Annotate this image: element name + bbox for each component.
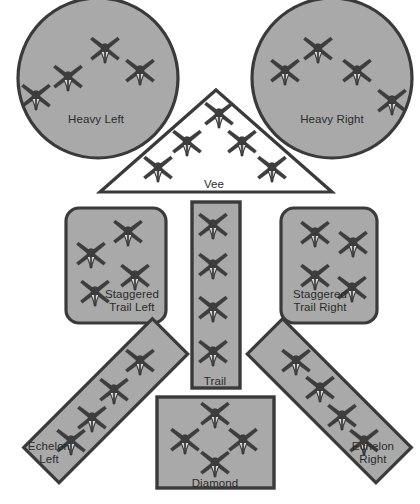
formation-label-echelon-right: Echelon Right xyxy=(163,440,420,466)
label-layer: Heavy LeftHeavy RightVeeStaggered Trail … xyxy=(0,0,420,504)
formation-label-vee: Vee xyxy=(4,178,420,191)
formation-label-diamond: Diamond xyxy=(5,477,420,490)
formation-label-heavy-left: Heavy Left xyxy=(0,113,306,126)
formation-label-trail: Trail xyxy=(5,375,420,388)
formation-label-echelon-left: Echelon Left xyxy=(0,440,259,466)
formation-diagram: Heavy LeftHeavy RightVeeStaggered Trail … xyxy=(0,0,420,504)
formation-label-heavy-right: Heavy Right xyxy=(122,113,420,126)
formation-label-staggered-trail-left: Staggered Trail Left xyxy=(0,288,342,314)
formation-label-staggered-trail-right: Staggered Trail Right xyxy=(110,288,420,314)
